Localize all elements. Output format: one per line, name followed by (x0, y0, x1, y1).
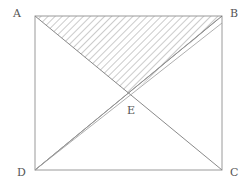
point-label-d: D (17, 167, 26, 178)
point-label-b: B (230, 8, 238, 19)
geometry-diagram (0, 0, 250, 185)
shaded-triangle-abe (35, 16, 222, 95)
point-label-a: A (13, 8, 21, 19)
point-label-c: C (230, 167, 238, 178)
point-label-e: E (127, 105, 135, 116)
